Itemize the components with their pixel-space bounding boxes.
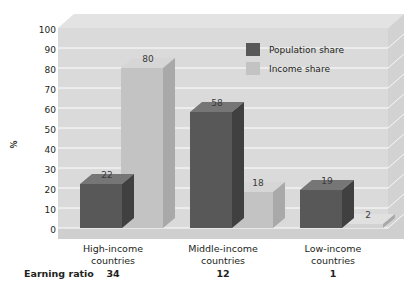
legend: Population share Income share	[246, 40, 396, 78]
value-label-population-middle-income: 58	[211, 99, 222, 108]
legend-item-income-share: Income share	[246, 59, 396, 78]
value-label-population-high-income: 22	[101, 171, 112, 180]
category-label-high-income-line1: High-income	[83, 243, 143, 255]
legend-label-income-share: Income share	[269, 64, 330, 74]
value-label-income-high-income: 80	[142, 55, 153, 64]
y-tick-90: 90	[45, 46, 56, 55]
legend-swatch-income-icon	[246, 62, 260, 75]
category-label-low-income-line2: countries	[311, 255, 355, 267]
y-tick-50: 50	[45, 126, 56, 135]
category-label-low-income-line1: Low-income	[305, 243, 362, 255]
legend-item-population-share: Population share	[246, 40, 396, 59]
chart-container: % 100 90 80 70 60 50 40 30 20 10 0	[0, 0, 418, 290]
top-ledge	[58, 14, 404, 28]
value-label-income-low-income: 2	[365, 211, 371, 220]
bar-population-high-income	[80, 174, 134, 228]
earning-ratio-value-high-income: 34	[106, 268, 119, 280]
y-tick-100: 100	[39, 26, 56, 35]
y-tick-40: 40	[45, 146, 56, 155]
value-label-population-low-income: 19	[321, 177, 332, 186]
y-tick-70: 70	[45, 86, 56, 95]
y-axis-title: %	[10, 140, 19, 148]
earning-ratio-value-low-income: 1	[330, 268, 337, 280]
value-label-income-middle-income: 18	[252, 179, 263, 188]
bar-population-middle-income	[190, 102, 244, 228]
y-tick-80: 80	[45, 66, 56, 75]
category-label-middle-income-line1: Middle-income	[188, 243, 258, 255]
legend-swatch-population-icon	[246, 43, 260, 56]
x-axis-category-labels: High-income countries Middle-income coun…	[58, 243, 404, 269]
y-tick-30: 30	[45, 166, 56, 175]
plot-area: 22 80 58 18 19 2 Population share Income…	[58, 14, 404, 239]
y-tick-20: 20	[45, 186, 56, 195]
earning-ratio-row: Earning ratio 34 12 1	[0, 268, 418, 282]
bar-population-low-income	[300, 180, 354, 228]
earning-ratio-title: Earning ratio	[24, 268, 94, 280]
y-tick-0: 0	[50, 226, 56, 235]
earning-ratio-value-middle-income: 12	[216, 268, 229, 280]
y-axis-tick-labels: 100 90 80 70 60 50 40 30 20 10 0	[20, 16, 56, 237]
y-tick-60: 60	[45, 106, 56, 115]
y-tick-10: 10	[45, 206, 56, 215]
legend-label-population-share: Population share	[269, 45, 344, 55]
category-label-middle-income-line2: countries	[201, 255, 245, 267]
category-label-high-income-line2: countries	[91, 255, 135, 267]
